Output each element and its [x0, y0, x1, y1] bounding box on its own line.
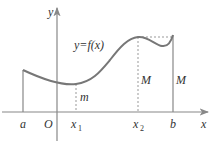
point-b-label: b: [170, 117, 176, 131]
x-axis-label: x: [200, 117, 207, 131]
point-a-label: a: [20, 117, 26, 131]
max-value-label-right: M: [175, 73, 187, 87]
point-x1-label: x: [70, 117, 77, 131]
point-x2-subscript: 2: [140, 124, 144, 133]
function-diagram: y x O y=f(x) a x 1 x 2 b m M M: [0, 0, 214, 142]
origin-label: O: [44, 117, 53, 131]
point-x2-label: x: [132, 117, 139, 131]
function-label: y=f(x): [73, 38, 104, 52]
y-axis-label: y: [47, 5, 54, 19]
max-value-label-inner: M: [140, 73, 152, 87]
point-x1-subscript: 1: [78, 124, 82, 133]
min-value-label: m: [80, 90, 89, 104]
